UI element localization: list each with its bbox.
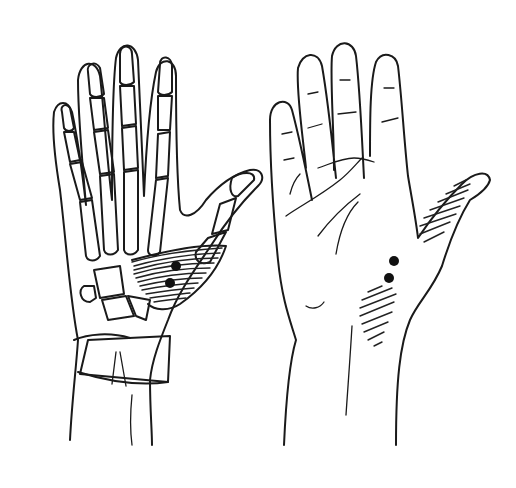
phalanges (62, 47, 255, 264)
referred-pain-zone-wrist (360, 286, 396, 346)
trigger-point-dot (384, 273, 394, 283)
finger-creases (282, 80, 398, 168)
surface-hand-panel (270, 43, 490, 445)
trigger-point-dot (165, 278, 175, 288)
hand-illustration (0, 0, 516, 488)
palm-creases (286, 158, 362, 415)
referred-pain-zone-thumb (420, 180, 470, 242)
carpal-bones (80, 266, 170, 386)
surface-hand-outline (270, 43, 490, 445)
forearm-line (131, 395, 133, 445)
skeletal-hand-panel (53, 45, 262, 445)
anatomy-figure: Hand anatomy: trigger points of the then… (0, 0, 516, 488)
trigger-point-dot (171, 261, 181, 271)
trigger-point-dot (389, 256, 399, 266)
